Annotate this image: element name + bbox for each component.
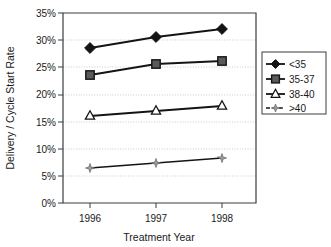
marker-diamond-icon — [151, 32, 162, 43]
x-axis-title: Treatment Year — [123, 231, 195, 243]
legend-label: >40 — [289, 103, 306, 114]
legend-label: 35-37 — [289, 74, 315, 85]
series-over-40 — [86, 154, 227, 173]
legend-item-35-37[interactable]: 35-37 — [266, 74, 315, 85]
marker-diamond-icon — [85, 43, 96, 54]
marker-square-icon — [152, 60, 160, 68]
y-tick-label: 35% — [36, 8, 56, 19]
series-under-35 — [85, 24, 228, 54]
y-tick-label: 0% — [42, 198, 57, 209]
legend-label: <35 — [289, 59, 306, 70]
marker-square-icon — [86, 71, 94, 79]
marker-diamond-icon — [217, 24, 228, 35]
series-35-37 — [86, 57, 226, 79]
y-tick-label: 10% — [36, 144, 56, 155]
y-tick-label: 30% — [36, 35, 56, 46]
x-tick-label: 1996 — [79, 213, 102, 224]
legend-label: 38-40 — [289, 89, 315, 100]
marker-star-icon — [86, 164, 95, 173]
x-tick-label: 1998 — [211, 213, 234, 224]
line-chart: Delivery / Cycle Start Rate 35% 30% 25% … — [0, 0, 331, 247]
marker-star-icon — [218, 154, 227, 163]
series-38-40 — [85, 101, 226, 119]
marker-square-icon — [272, 75, 280, 83]
x-tick-label: 1997 — [145, 213, 168, 224]
chart-legend: <35 35-37 38-40 >40 — [262, 52, 326, 114]
y-axis-tick-marks — [58, 13, 63, 203]
y-axis-title: Delivery / Cycle Start Rate — [4, 46, 16, 169]
y-tick-label: 5% — [42, 171, 57, 182]
plot-frame — [63, 13, 256, 203]
x-axis-tick-marks — [90, 203, 222, 208]
marker-triangle-icon — [217, 101, 226, 109]
y-tick-label: 20% — [36, 89, 56, 100]
y-axis-tick-labels: 35% 30% 25% 20% 15% 10% 5% 0% — [36, 8, 56, 209]
x-axis-tick-labels: 1996 1997 1998 — [79, 213, 234, 224]
marker-star-icon — [152, 159, 161, 168]
chart-svg: Delivery / Cycle Start Rate 35% 30% 25% … — [0, 0, 331, 247]
marker-square-icon — [218, 57, 226, 65]
y-tick-label: 25% — [36, 62, 56, 73]
y-tick-label: 15% — [36, 117, 56, 128]
